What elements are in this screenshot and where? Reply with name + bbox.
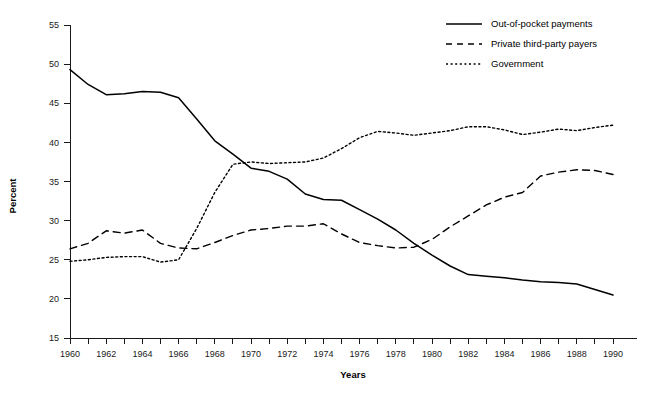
y-tick-label: 45: [49, 98, 59, 108]
series-line-dashed: [70, 170, 613, 249]
x-tick-label: 1988: [567, 349, 587, 359]
y-tick-label: 35: [49, 177, 59, 187]
x-tick-label: 1982: [458, 349, 478, 359]
x-tick-label: 1976: [350, 349, 370, 359]
legend-label: Private third-party payers: [491, 38, 597, 49]
y-axis-title: Percent: [7, 178, 18, 214]
series-line-solid: [70, 70, 613, 295]
y-tick-label: 30: [49, 216, 59, 226]
x-tick-label: 1986: [531, 349, 551, 359]
legend-label: Government: [491, 58, 544, 69]
x-tick-label: 1980: [422, 349, 442, 359]
x-axis-group: 1960196219641966196819701972197419761978…: [60, 338, 637, 359]
y-tick-label: 55: [49, 20, 59, 30]
y-tick-label: 20: [49, 294, 59, 304]
y-tick-label: 40: [49, 138, 59, 148]
x-axis-title: Years: [340, 369, 365, 380]
x-tick-group: 1960196219641966196819701972197419761978…: [60, 338, 623, 359]
x-tick-label: 1966: [169, 349, 189, 359]
x-tick-label: 1978: [386, 349, 406, 359]
series-line-dotted: [70, 125, 613, 262]
x-tick-label: 1990: [603, 349, 623, 359]
legend-label: Out-of-pocket payments: [491, 18, 593, 29]
x-tick-label: 1964: [132, 349, 152, 359]
y-axis-group: 152025303540455055: [49, 20, 70, 343]
y-tick-label: 15: [49, 333, 59, 343]
series-group: [70, 70, 613, 295]
x-tick-label: 1972: [277, 349, 297, 359]
y-tick-group: 152025303540455055: [49, 20, 70, 343]
y-tick-label: 50: [49, 59, 59, 69]
x-tick-label: 1962: [96, 349, 116, 359]
x-tick-label: 1974: [313, 349, 333, 359]
chart-canvas: 152025303540455055 196019621964196619681…: [0, 0, 651, 398]
y-tick-label: 25: [49, 255, 59, 265]
chart-legend: Out-of-pocket paymentsPrivate third-part…: [446, 18, 597, 69]
x-tick-label: 1970: [241, 349, 261, 359]
x-tick-label: 1984: [494, 349, 514, 359]
line-chart: 152025303540455055 196019621964196619681…: [0, 0, 651, 398]
x-tick-label: 1960: [60, 349, 80, 359]
x-tick-label: 1968: [205, 349, 225, 359]
